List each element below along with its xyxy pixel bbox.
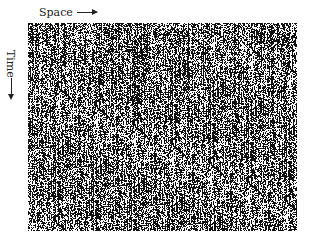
space-label-text: Space	[39, 6, 73, 19]
arrow-down-icon	[11, 78, 12, 98]
arrow-right-icon	[77, 12, 97, 13]
space-time-plot	[28, 23, 297, 231]
time-label-text: Time	[4, 50, 17, 78]
space-axis-label: Space	[39, 6, 97, 19]
time-axis-label: Time	[1, 28, 23, 98]
